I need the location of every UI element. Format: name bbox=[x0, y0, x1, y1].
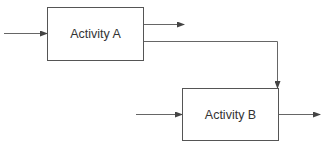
activity-b-label: Activity B bbox=[205, 108, 256, 122]
activity-a-label: Activity A bbox=[70, 27, 121, 41]
activity-b-box: Activity B bbox=[182, 88, 279, 141]
activity-a-box: Activity A bbox=[47, 7, 144, 61]
connector-a-to-b bbox=[143, 42, 278, 89]
